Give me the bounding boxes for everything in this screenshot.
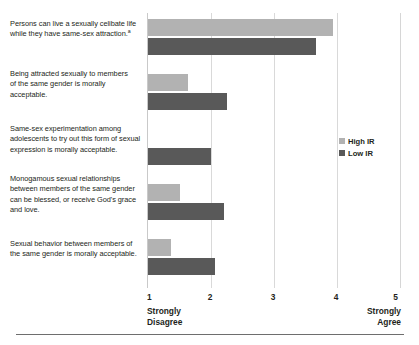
x-tick-3: 3 bbox=[271, 292, 276, 302]
axis-anchor-low-line2: Disagree bbox=[147, 317, 182, 327]
category-label-5: Sexual behavior between members of the s… bbox=[10, 239, 143, 260]
category-label-2: Being attracted sexually to members of t… bbox=[10, 69, 143, 100]
category-label-3-line2: adolescents to try out this form of sexu… bbox=[10, 134, 140, 143]
x-tick-2: 2 bbox=[208, 292, 213, 302]
category-label-3-line1: Same-sex experimentation among bbox=[10, 124, 121, 133]
category-label-3: Same-sex experimentation among adolescen… bbox=[10, 124, 143, 155]
x-tick-4: 4 bbox=[334, 292, 339, 302]
x-tick-5: 5 bbox=[393, 292, 398, 302]
legend-swatch-high-ir bbox=[339, 138, 345, 144]
category-label-2-line2: of the same gender is morally bbox=[10, 79, 106, 88]
axis-anchor-low: Strongly Disagree bbox=[147, 306, 182, 328]
legend-label-high-ir: High IR bbox=[348, 137, 375, 146]
bar-high-ir-5 bbox=[148, 239, 171, 256]
category-label-2-line1: Being attracted sexually to members bbox=[10, 69, 128, 78]
axis-anchor-high-line2: Agree bbox=[377, 317, 401, 327]
legend-swatch-low-ir bbox=[339, 150, 345, 156]
bar-group-5 bbox=[148, 239, 400, 294]
legend-item-high-ir: High IR bbox=[339, 136, 401, 146]
legend-item-low-ir: Low IR bbox=[339, 148, 401, 158]
category-label-5-line1: Sexual behavior between members of bbox=[10, 239, 132, 248]
x-axis: 1 2 3 4 5 Strongly Disagree Strongly Agr… bbox=[147, 288, 401, 338]
bar-low-ir-4 bbox=[148, 203, 224, 220]
footnote-marker-a: a bbox=[128, 28, 131, 34]
axis-anchor-low-line1: Strongly bbox=[147, 306, 181, 316]
bar-group-4 bbox=[148, 184, 400, 239]
bar-high-ir-2 bbox=[148, 74, 188, 91]
category-label-1-line2: while they have same-sex attraction. bbox=[10, 29, 128, 38]
footer-divider bbox=[16, 334, 404, 335]
bar-low-ir-3 bbox=[148, 148, 211, 165]
axis-anchor-high: Strongly Agree bbox=[367, 306, 401, 328]
category-label-4-line2: between members of the same gender bbox=[10, 184, 135, 193]
bar-high-ir-4 bbox=[148, 184, 180, 201]
bar-low-ir-2 bbox=[148, 93, 227, 110]
x-tick-1: 1 bbox=[147, 292, 152, 302]
category-label-1: Persons can live a sexually celibate lif… bbox=[10, 19, 143, 40]
chart-legend: High IR Low IR bbox=[339, 136, 401, 160]
category-label-4-line4: and love. bbox=[10, 205, 40, 214]
bar-low-ir-1 bbox=[148, 38, 316, 55]
axis-anchor-high-line1: Strongly bbox=[367, 306, 401, 316]
bar-group-1 bbox=[148, 19, 400, 74]
category-label-4-line1: Monogamous sexual relationships bbox=[10, 174, 120, 183]
bar-chart-figure: Persons can live a sexually celibate lif… bbox=[0, 0, 419, 345]
bar-group-2 bbox=[148, 74, 400, 129]
category-label-4: Monogamous sexual relationships between … bbox=[10, 174, 143, 216]
category-label-3-line3: expression is morally acceptable. bbox=[10, 145, 117, 154]
category-label-4-line3: can be blessed, or receive God's grace bbox=[10, 195, 136, 204]
bar-high-ir-1 bbox=[148, 19, 333, 36]
category-label-5-line2: the same gender is morally acceptable. bbox=[10, 249, 137, 258]
category-label-1-line1: Persons can live a sexually celibate lif… bbox=[10, 19, 136, 28]
bar-low-ir-5 bbox=[148, 258, 215, 275]
category-label-2-line3: acceptable. bbox=[10, 90, 47, 99]
legend-label-low-ir: Low IR bbox=[348, 149, 373, 158]
